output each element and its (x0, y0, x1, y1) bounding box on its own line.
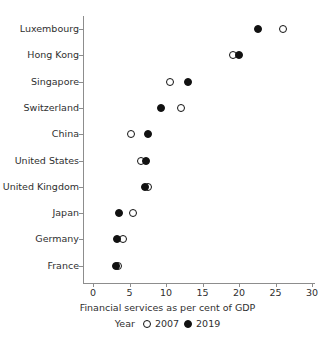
legend-label-2007: 2007 (155, 318, 179, 329)
y-axis-tick (79, 55, 83, 56)
data-point (142, 157, 150, 165)
data-point (129, 209, 137, 217)
data-point (112, 262, 120, 270)
data-point (235, 51, 243, 59)
data-point (184, 78, 192, 86)
x-axis-tick-label: 25 (269, 288, 281, 298)
y-axis-tick (79, 213, 83, 214)
y-axis-tick (79, 134, 83, 135)
y-axis-label-singapore: Singapore (31, 77, 79, 87)
y-axis-label-united-states: United States (15, 156, 79, 166)
x-axis-tick-label: 30 (306, 288, 318, 298)
y-axis-label-japan: Japan (53, 208, 80, 218)
y-axis-tick (79, 161, 83, 162)
y-axis-label-hong-kong: Hong Kong (27, 50, 79, 60)
filled-circle-icon (184, 320, 192, 328)
dot-plot-chart: Financial services as per cent of GDP Ye… (0, 0, 335, 341)
y-axis-label-united-kingdom: United Kingdom (3, 182, 79, 192)
y-axis-label-switzerland: Switzerland (24, 103, 79, 113)
legend-title: Year (115, 318, 135, 329)
data-point (144, 130, 152, 138)
data-point (141, 183, 149, 191)
data-point (115, 209, 123, 217)
x-axis-tick-label: 10 (160, 288, 172, 298)
legend-item-2019[interactable]: 2019 (184, 318, 220, 329)
legend-item-2007[interactable]: 2007 (143, 318, 179, 329)
y-axis-tick (79, 266, 83, 267)
y-axis-tick (79, 187, 83, 188)
y-axis-label-luxembourg: Luxembourg (20, 24, 79, 34)
y-axis-label-germany: Germany (35, 234, 79, 244)
x-axis-tick-label: 5 (126, 288, 132, 298)
x-axis-tick-label: 0 (90, 288, 96, 298)
y-axis-line (83, 16, 84, 283)
y-axis-tick (79, 82, 83, 83)
data-point (166, 78, 174, 86)
open-circle-icon (143, 320, 151, 328)
y-axis-label-france: France (47, 261, 79, 271)
data-point (279, 25, 287, 33)
data-point (113, 235, 121, 243)
y-axis-label-china: China (52, 129, 79, 139)
legend: Year 2007 2019 (0, 318, 335, 329)
x-axis-tick-label: 15 (196, 288, 208, 298)
x-axis-title: Financial services as per cent of GDP (0, 302, 335, 313)
legend-label-2019: 2019 (196, 318, 220, 329)
x-axis-tick-label: 20 (233, 288, 245, 298)
y-axis-tick (79, 239, 83, 240)
data-point (177, 104, 185, 112)
data-point (127, 130, 135, 138)
y-axis-tick (79, 29, 83, 30)
y-axis-tick (79, 108, 83, 109)
x-axis-line (83, 283, 315, 284)
data-point (157, 104, 165, 112)
data-point (254, 25, 262, 33)
